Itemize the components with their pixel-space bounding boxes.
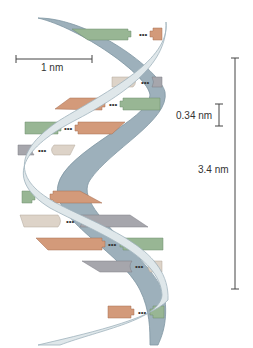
svg-text:•••: •••	[109, 100, 118, 109]
svg-text:•••: •••	[141, 78, 150, 87]
svg-text:•••: •••	[38, 146, 47, 155]
svg-text:•••: •••	[135, 262, 144, 271]
scale-bar-pitch	[231, 58, 239, 289]
scale-bar-rise	[215, 104, 223, 126]
base-pair: •••	[25, 122, 125, 134]
pitch-label: 3.4 nm	[198, 164, 229, 175]
rise-label: 0.34 nm	[176, 110, 212, 121]
base-pair: •••	[36, 238, 163, 250]
base-pair: •••	[18, 145, 75, 155]
dna-helix-diagram: ••• ••• ••• •••	[0, 0, 253, 348]
width-label: 1 nm	[41, 62, 63, 73]
base-pair: •••	[72, 28, 162, 40]
svg-text:•••: •••	[139, 30, 148, 39]
